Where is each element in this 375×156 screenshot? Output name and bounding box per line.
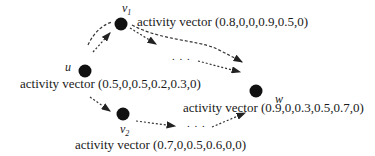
activity-vector-diagram: v1 u v2 w activity vector (0.8,0,0,0.9,0…: [0, 0, 375, 156]
edge-u-v1-arrow: [93, 33, 110, 52]
node-u-letter: u: [65, 60, 71, 74]
edge-v2-dots-arrow: [136, 121, 175, 126]
node-v1-subscript: 1: [127, 8, 131, 17]
edge-u-v2-arrow: [90, 97, 110, 111]
node-v1: [115, 18, 128, 31]
node-v1-name: v1: [122, 2, 131, 17]
node-w: [250, 85, 263, 98]
node-u-name: u: [65, 61, 71, 73]
edge-dots-w-lower: [212, 113, 245, 127]
node-v2: [117, 108, 130, 121]
node-v2-label: activity vector (0.7,0,0.5,0.6,0,0): [75, 138, 246, 151]
ellipsis-lower: . . .: [187, 118, 206, 129]
ellipsis-upper: . . .: [172, 51, 191, 62]
node-w-label: activity vector (0.9,0,0.3,0.5,0.7,0): [183, 101, 364, 114]
edge-u-v1-curve: [88, 22, 112, 45]
node-u-label: activity vector (0.5,0,0.5,0.2,0.3,0): [20, 77, 201, 90]
edge-dots-w-upper: [198, 61, 240, 72]
node-v1-label: activity vector (0.8,0,0,0.9,0.5,0): [137, 15, 308, 28]
